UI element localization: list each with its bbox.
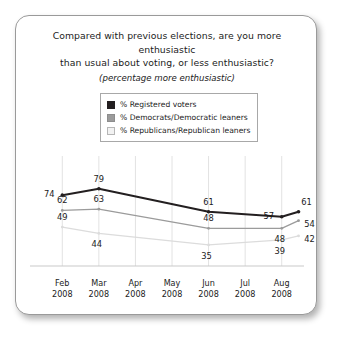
tick-month: Jul bbox=[235, 278, 256, 289]
tick-month: Feb bbox=[52, 278, 73, 289]
data-point-marker bbox=[97, 232, 100, 235]
data-point-marker bbox=[297, 219, 300, 222]
data-point-value-label: 48 bbox=[274, 234, 285, 244]
legend-item-republicans: % Republicans/Republican leaners bbox=[107, 124, 250, 137]
data-point-value-label: 54 bbox=[304, 219, 315, 229]
data-point-value-label: 61 bbox=[203, 197, 214, 207]
x-axis-tick-jul: Jul2008 bbox=[235, 278, 256, 299]
data-point-marker bbox=[297, 210, 301, 214]
page-title-line-2: than usual about voting, or less enthusi… bbox=[24, 56, 310, 70]
legend-label-democrats: % Democrats/Democratic leaners bbox=[120, 113, 248, 122]
x-axis-tick-jun: Jun2008 bbox=[198, 278, 219, 299]
x-axis-tick-aug: Aug2008 bbox=[271, 278, 292, 299]
tick-year: 2008 bbox=[125, 289, 146, 300]
legend-item-democrats: % Democrats/Democratic leaners bbox=[107, 111, 250, 124]
chart-plot-area: 747961576162634848544944353942 bbox=[28, 154, 306, 276]
legend-label-registered-voters: % Registered voters bbox=[120, 100, 197, 109]
x-axis-tick-may: May2008 bbox=[162, 278, 183, 299]
data-point-value-label: 39 bbox=[274, 246, 285, 256]
x-axis-tick-mar: Mar2008 bbox=[89, 278, 110, 299]
data-point-value-label: 49 bbox=[57, 212, 68, 222]
tick-month: May bbox=[162, 278, 183, 289]
legend-label-republicans: % Republicans/Republican leaners bbox=[120, 126, 250, 135]
page-title-line-1: Compared with previous elections, are yo… bbox=[24, 29, 310, 56]
data-point-value-label: 44 bbox=[92, 239, 103, 249]
chart-card: Compared with previous elections, are yo… bbox=[15, 15, 317, 315]
data-point-marker bbox=[207, 227, 210, 230]
data-point-value-label: 61 bbox=[301, 197, 312, 207]
data-point-marker bbox=[61, 226, 64, 229]
data-point-value-label: 35 bbox=[201, 251, 212, 261]
legend-swatch-icon-republicans bbox=[107, 127, 115, 135]
data-point-marker bbox=[280, 215, 284, 219]
data-point-marker bbox=[97, 208, 100, 211]
x-axis-tick-feb: Feb2008 bbox=[52, 278, 73, 299]
data-point-value-label: 62 bbox=[57, 195, 68, 205]
data-point-marker bbox=[207, 243, 210, 246]
chart-title-block: Compared with previous elections, are yo… bbox=[24, 29, 310, 85]
tick-year: 2008 bbox=[271, 289, 292, 300]
tick-month: Mar bbox=[89, 278, 110, 289]
legend-swatch-icon-democrats bbox=[107, 114, 115, 122]
tick-month: Apr bbox=[125, 278, 146, 289]
tick-year: 2008 bbox=[89, 289, 110, 300]
data-point-marker bbox=[97, 187, 101, 191]
screenshot-root: Compared with previous elections, are yo… bbox=[0, 0, 338, 338]
tick-year: 2008 bbox=[198, 289, 219, 300]
legend-item-registered-voters: % Registered voters bbox=[107, 98, 250, 111]
data-point-value-label: 79 bbox=[94, 174, 105, 184]
data-point-value-label: 74 bbox=[44, 189, 55, 199]
data-point-value-label: 57 bbox=[263, 211, 274, 221]
chart-subtitle: (percentage more enthusiastic) bbox=[24, 71, 310, 85]
tick-year: 2008 bbox=[52, 289, 73, 300]
tick-month: Aug bbox=[271, 278, 292, 289]
data-point-value-label: 42 bbox=[304, 234, 315, 244]
x-axis-tick-labels: Feb2008Mar2008Apr2008May2008Jun2008Jul20… bbox=[28, 278, 306, 308]
data-point-value-label: 48 bbox=[203, 213, 214, 223]
chart-legend: % Registered voters % Democrats/Democrat… bbox=[100, 93, 258, 142]
data-point-marker bbox=[297, 235, 300, 238]
data-point-marker bbox=[280, 227, 283, 230]
legend-swatch-icon-registered-voters bbox=[107, 101, 115, 109]
x-axis-tick-apr: Apr2008 bbox=[125, 278, 146, 299]
data-point-value-label: 63 bbox=[94, 194, 105, 204]
tick-year: 2008 bbox=[162, 289, 183, 300]
tick-month: Jun bbox=[198, 278, 219, 289]
tick-year: 2008 bbox=[235, 289, 256, 300]
